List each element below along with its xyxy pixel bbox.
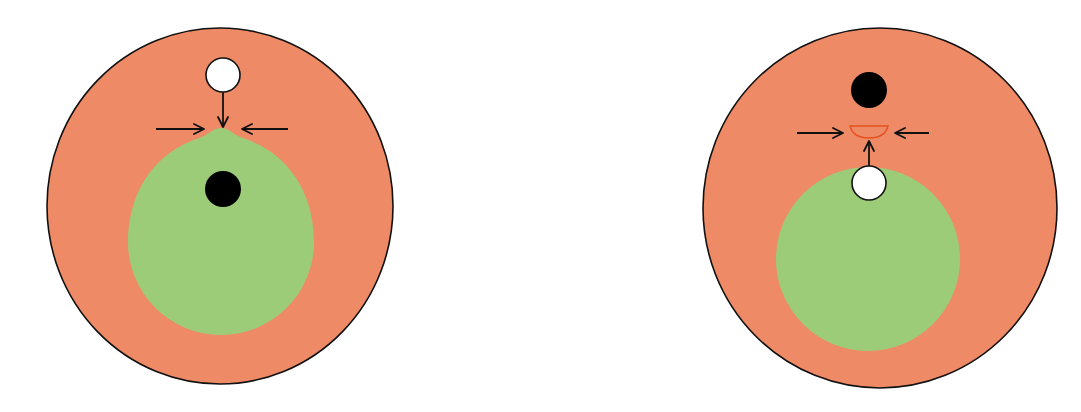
left-black-particle	[205, 171, 241, 207]
right-black-particle	[851, 72, 887, 108]
left-white-particle	[206, 58, 240, 92]
right-panel	[703, 28, 1057, 388]
diagram-canvas: Outer orange disk containing a green inn…	[0, 0, 1081, 412]
diagram-svg	[0, 0, 1081, 412]
left-panel	[47, 28, 393, 384]
right-white-particle	[852, 166, 886, 200]
